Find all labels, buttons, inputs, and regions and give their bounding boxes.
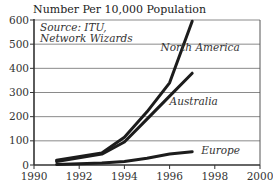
source-note-line: Network Wizards bbox=[39, 32, 133, 44]
x-tick-label: 1996 bbox=[156, 170, 183, 182]
y-tick-label: 400 bbox=[9, 62, 29, 74]
y-tick-label: 500 bbox=[9, 38, 29, 50]
series-label-australia: Australia bbox=[169, 95, 218, 107]
chart-title: Number Per 10,000 Population bbox=[33, 3, 206, 16]
y-tick-label: 600 bbox=[9, 14, 29, 26]
x-tick-label: 1992 bbox=[66, 170, 93, 182]
source-note: Source: ITU,Network Wizards bbox=[39, 21, 133, 44]
x-tick-label: 1994 bbox=[111, 170, 138, 182]
x-axis-ticks: 199019921994199619982000 bbox=[21, 165, 273, 182]
line-chart: Number Per 10,000 Population 01002003004… bbox=[0, 0, 273, 188]
series-line-australia bbox=[57, 73, 193, 161]
series-label-north-america: North America bbox=[160, 41, 240, 53]
series-label-europe: Europe bbox=[200, 144, 240, 156]
y-axis-ticks: 0100200300400500600 bbox=[9, 14, 34, 171]
y-tick-label: 300 bbox=[9, 86, 29, 98]
series-labels: North AmericaAustraliaEurope bbox=[160, 41, 240, 156]
x-tick-label: 2000 bbox=[247, 170, 273, 182]
x-tick-label: 1998 bbox=[201, 170, 228, 182]
y-tick-label: 0 bbox=[22, 159, 29, 171]
y-tick-label: 200 bbox=[9, 110, 29, 122]
y-tick-label: 100 bbox=[9, 134, 29, 146]
x-tick-label: 1990 bbox=[21, 170, 48, 182]
